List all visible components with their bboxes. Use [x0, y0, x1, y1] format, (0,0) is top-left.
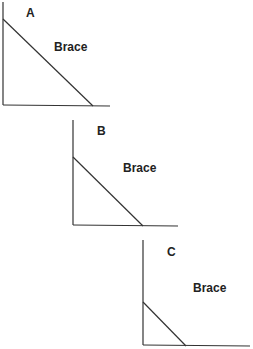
diagram-a: A Brace: [3, 2, 110, 106]
brace-label-c: Brace: [193, 281, 227, 295]
brace-line-a: [3, 19, 93, 106]
floor-line-c: [143, 345, 250, 346]
floor-line-a: [3, 105, 110, 106]
diagram-label-a: A: [26, 6, 35, 20]
brace-label-a: Brace: [54, 40, 88, 54]
brace-diagrams: A Brace B Brace C Brace: [0, 0, 253, 349]
brace-label-b: Brace: [123, 161, 157, 175]
diagram-b: B Brace: [73, 120, 178, 226]
diagram-c: C Brace: [143, 240, 250, 346]
diagram-label-b: B: [97, 124, 106, 138]
floor-line-b: [73, 225, 178, 226]
brace-line-c: [143, 302, 186, 346]
diagram-label-c: C: [167, 245, 176, 259]
